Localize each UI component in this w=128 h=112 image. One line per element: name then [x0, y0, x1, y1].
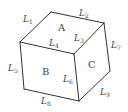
edge-l7 [104, 23, 110, 71]
edge-label-l1: L1 [22, 14, 33, 25]
edge-l4 [20, 42, 74, 54]
edge-label-l7: L7 [110, 40, 121, 51]
face-label-c: C [88, 59, 96, 70]
edge-l6 [74, 54, 79, 101]
edge-label-l9: L9 [99, 87, 110, 98]
edge-label-l8: L8 [40, 96, 51, 107]
edge-label-l5: L5 [7, 63, 18, 74]
face-label-a: A [57, 22, 66, 33]
edge-l8 [24, 89, 79, 101]
edge-label-l6: L6 [62, 74, 73, 85]
edge-l5 [20, 42, 24, 89]
edge-label-l4: L4 [48, 38, 59, 49]
face-label-b: B [42, 66, 49, 77]
cube-diagram: A B C L1 L2 L3 L4 L5 L6 L7 L8 L9 [0, 0, 128, 112]
edge-label-l3: L3 [73, 33, 84, 44]
edge-label-l2: L2 [78, 8, 89, 19]
